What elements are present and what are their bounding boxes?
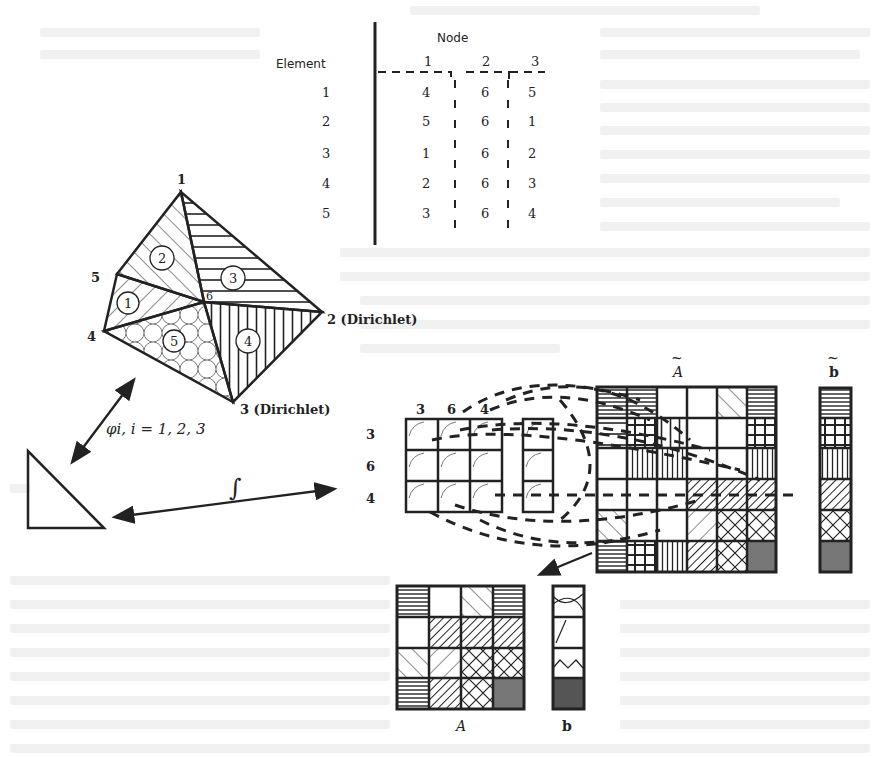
svg-text:5: 5 bbox=[170, 334, 178, 349]
svg-text:2: 2 bbox=[322, 114, 330, 129]
svg-text:1: 1 bbox=[528, 114, 536, 129]
element-header: Element bbox=[276, 57, 326, 71]
tilde-mark: ~ bbox=[827, 350, 839, 366]
local-col-label: 4 bbox=[480, 402, 489, 417]
svg-text:2: 2 bbox=[422, 176, 430, 191]
svg-text:3: 3 bbox=[528, 176, 536, 191]
svg-text:2: 2 bbox=[528, 146, 536, 161]
global-vector-label: b bbox=[829, 364, 839, 380]
local-col-label: 3 bbox=[416, 402, 425, 417]
vertex-label-6: 6 bbox=[206, 290, 213, 303]
local-row-label: 6 bbox=[366, 459, 375, 474]
svg-text:3: 3 bbox=[422, 206, 430, 221]
svg-text:2: 2 bbox=[158, 251, 166, 266]
element-label-1: 1 bbox=[117, 292, 139, 314]
reference-triangle bbox=[28, 451, 104, 528]
fem-assembly-figure: Node Element 1 2 3 1 4 6 5 2 5 6 1 3 1 6… bbox=[0, 0, 880, 757]
vertex-label-4: 4 bbox=[87, 329, 96, 344]
element-label-2: 2 bbox=[150, 246, 174, 270]
local-col-label: 6 bbox=[447, 402, 456, 417]
triangular-mesh: 1 2 3 4 5 1 2 (Dirichlet) 3 (Dirichlet) … bbox=[87, 172, 417, 417]
svg-text:4: 4 bbox=[244, 334, 252, 349]
table-row: 3 1 6 2 bbox=[322, 146, 536, 161]
svg-text:1: 1 bbox=[322, 85, 330, 100]
table-row: 4 2 6 3 bbox=[322, 176, 536, 191]
svg-text:6: 6 bbox=[481, 176, 489, 191]
global-matrix-label: A bbox=[671, 364, 683, 380]
element-3 bbox=[181, 192, 322, 312]
svg-text:4: 4 bbox=[528, 206, 536, 221]
element-label-5: 5 bbox=[163, 330, 185, 352]
integral-arrow bbox=[116, 489, 333, 517]
element-label-4: 4 bbox=[236, 329, 260, 353]
vertex-label-5: 5 bbox=[91, 270, 100, 285]
svg-text:1: 1 bbox=[422, 146, 430, 161]
svg-text:5: 5 bbox=[422, 114, 430, 129]
svg-text:6: 6 bbox=[481, 146, 489, 161]
reduction-arrow bbox=[541, 553, 592, 574]
connectivity-table: Node Element 1 2 3 1 4 6 5 2 5 6 1 3 1 6… bbox=[276, 22, 545, 245]
global-vector-b-tilde: b ~ bbox=[820, 350, 851, 572]
element-label-3: 3 bbox=[221, 266, 245, 290]
table-row: 5 3 6 4 bbox=[322, 206, 536, 221]
svg-text:5: 5 bbox=[528, 85, 536, 100]
node-col-2: 2 bbox=[482, 54, 490, 69]
vertex-label-3: 3 (Dirichlet) bbox=[240, 402, 330, 417]
vertex-label-1: 1 bbox=[177, 172, 186, 187]
svg-text:6: 6 bbox=[481, 206, 489, 221]
table-row: 1 4 6 5 bbox=[322, 85, 536, 100]
svg-text:6: 6 bbox=[481, 85, 489, 100]
local-element-matrix: 3 6 4 3 6 4 bbox=[366, 402, 553, 512]
integral-label: ∫ bbox=[229, 474, 242, 502]
table-row: 2 5 6 1 bbox=[322, 114, 536, 129]
node-col-1: 1 bbox=[424, 54, 432, 69]
local-row-label: 4 bbox=[366, 491, 375, 506]
svg-text:4: 4 bbox=[422, 85, 430, 100]
svg-text:4: 4 bbox=[322, 176, 330, 191]
svg-text:3: 3 bbox=[229, 271, 237, 286]
tilde-mark: ~ bbox=[671, 350, 683, 366]
node-col-3: 3 bbox=[531, 54, 539, 69]
reduced-matrix-label: A bbox=[454, 718, 466, 734]
svg-text:5: 5 bbox=[322, 206, 330, 221]
global-matrix-A-tilde: A ~ bbox=[597, 350, 776, 572]
reduced-vector-b: b bbox=[553, 586, 584, 734]
reduced-matrix-A: A bbox=[397, 586, 524, 734]
svg-text:3: 3 bbox=[322, 146, 330, 161]
vertex-label-2: 2 (Dirichlet) bbox=[327, 312, 417, 327]
reduced-vector-label: b bbox=[562, 718, 572, 734]
local-row-label: 3 bbox=[366, 427, 375, 442]
svg-text:6: 6 bbox=[481, 114, 489, 129]
svg-text:1: 1 bbox=[124, 296, 132, 311]
mapping-label: φi, i = 1, 2, 3 bbox=[106, 420, 205, 438]
node-header: Node bbox=[437, 31, 468, 45]
